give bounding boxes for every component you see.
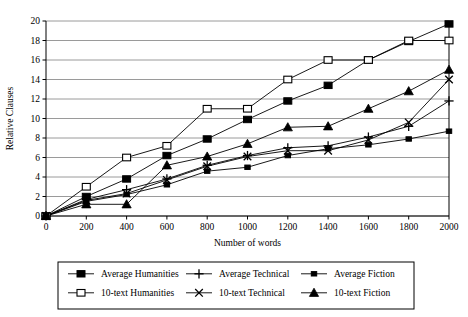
y-tick-label: 4: [35, 172, 40, 182]
y-tick-label: 20: [31, 16, 41, 26]
marker-small-filled-square: [366, 143, 371, 147]
marker-small-filled-square: [124, 192, 129, 196]
y-tick-label: 18: [31, 36, 41, 46]
x-tick-label: 1200: [278, 222, 297, 232]
x-tick-label: 0: [44, 222, 49, 232]
marker-open-square: [324, 57, 332, 64]
marker-small-filled-square: [446, 129, 451, 133]
legend-item-label: Average Technical: [219, 269, 290, 279]
marker-small-filled-square: [205, 169, 210, 173]
y-tick-label: 2: [35, 192, 40, 202]
y-tick-label: 12: [31, 94, 41, 104]
x-tick-label: 800: [200, 222, 215, 232]
marker-filled-square: [324, 82, 332, 88]
marker-open-square: [203, 105, 211, 112]
x-tick-label: 200: [79, 222, 94, 232]
x-tick-label: 600: [160, 222, 175, 232]
legend-item-label: Average Humanities: [101, 269, 179, 279]
marker-filled-square: [244, 116, 252, 122]
marker-open-square: [123, 154, 131, 161]
marker-small-filled-square: [245, 165, 250, 169]
marker-open-square: [244, 105, 252, 112]
x-tick-label: 400: [119, 222, 134, 232]
x-tick-label: 1600: [359, 222, 378, 232]
y-tick-label: 16: [31, 55, 41, 65]
x-tick-label: 1800: [399, 222, 418, 232]
y-tick-label: 14: [31, 75, 41, 85]
marker-filled-square: [445, 21, 453, 27]
legend-item: 10-text Fiction: [301, 288, 390, 298]
marker-filled-square: [123, 176, 131, 182]
marker-open-square: [82, 183, 90, 190]
marker-open-square: [284, 76, 292, 83]
legend-item-label: 10-text Fiction: [334, 288, 390, 298]
y-tick-label: 0: [35, 211, 40, 221]
legend-item: Average Humanities: [68, 269, 179, 279]
x-tick-label: 1000: [238, 222, 257, 232]
marker-small-filled-square: [164, 183, 169, 187]
y-tick-label: 10: [31, 114, 41, 124]
legend-item-label: 10-text Humanities: [101, 288, 174, 298]
legend-item-label: 10-text Technical: [219, 288, 285, 298]
marker-open-square: [445, 37, 453, 44]
marker-filled-square: [203, 136, 211, 142]
marker-filled-square: [163, 152, 171, 158]
x-tick-label: 1400: [319, 222, 338, 232]
x-axis-title: Number of words: [214, 238, 281, 248]
marker-small-filled-square: [285, 153, 290, 157]
legend-item-label: Average Fiction: [334, 269, 395, 279]
marker-open-square: [364, 57, 372, 64]
marker-small-filled-square: [311, 272, 316, 276]
marker-filled-square: [284, 98, 292, 104]
marker-open-square: [163, 143, 171, 150]
marker-small-filled-square: [406, 137, 411, 141]
marker-filled-square: [77, 271, 85, 277]
y-axis-title: Relative Clauses: [5, 86, 15, 150]
y-tick-label: 8: [35, 133, 40, 143]
marker-small-filled-square: [325, 147, 330, 151]
legend-item: 10-text Humanities: [68, 288, 174, 298]
relative-clauses-line-chart: 02468101214161820 0200400600800100012001…: [0, 0, 468, 317]
x-tick-label: 2000: [440, 222, 459, 232]
marker-open-square: [77, 290, 85, 297]
y-tick-label: 6: [35, 153, 40, 163]
chart-figure: 02468101214161820 0200400600800100012001…: [0, 0, 468, 317]
marker-open-square: [405, 37, 413, 44]
legend: Average HumanitiesAverage TechnicalAvera…: [58, 262, 414, 309]
